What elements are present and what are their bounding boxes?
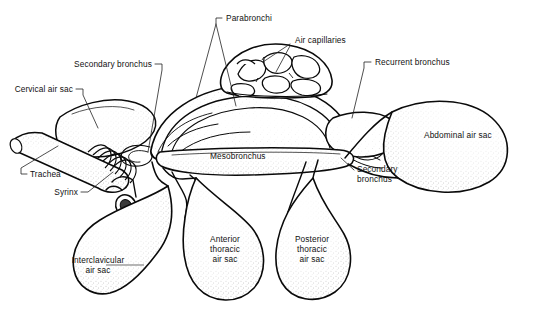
label-syrinx: Syrinx	[54, 187, 78, 197]
label-secondary-bronchus-lower-2: bronchus	[357, 174, 392, 184]
label-air-capillaries: Air capillaries	[295, 35, 346, 45]
label-secondary-bronchus-lower: Secondary	[357, 164, 398, 174]
label-cervical-air-sac: Cervical air sac	[15, 84, 73, 94]
label-posterior-thoracic-air-sac-3: air sac	[299, 254, 324, 264]
label-posterior-thoracic-air-sac: Posterior	[295, 234, 329, 244]
label-abdominal-air-sac: Abdominal air sac	[424, 130, 492, 140]
label-interclavicular-air-sac-2: air sac	[85, 265, 110, 275]
label-anterior-thoracic-air-sac-3: air sac	[212, 254, 237, 264]
avian-respiratory-diagram: Parabronchi Air capillaries Secondary br…	[0, 0, 533, 323]
label-trachea: Trachea	[30, 169, 61, 179]
leader-parabronchi	[196, 18, 222, 98]
leader-recurrent-bronchus	[352, 62, 371, 118]
label-mesobronchus: Mesobronchus	[210, 151, 266, 161]
label-posterior-thoracic-air-sac-2: thoracic	[297, 244, 327, 254]
label-anterior-thoracic-air-sac-2: thoracic	[210, 244, 240, 254]
label-secondary-bronchus-top: Secondary bronchus	[74, 59, 152, 69]
label-interclavicular-air-sac: Interclavicular	[72, 255, 125, 265]
label-recurrent-bronchus: Recurrent bronchus	[375, 57, 450, 67]
label-parabronchi: Parabronchi	[226, 13, 272, 23]
label-anterior-thoracic-air-sac: Anterior	[210, 234, 240, 244]
